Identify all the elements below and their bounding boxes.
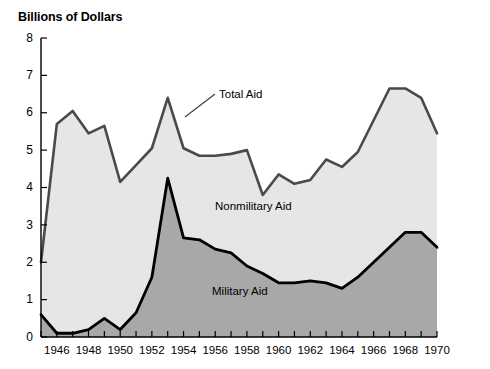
x-axis-tick-label: 1968 — [393, 344, 419, 356]
x-axis-tick-label: 1970 — [424, 344, 450, 356]
x-axis-tick-label: 1950 — [107, 344, 133, 356]
series-annotation-military-aid: Military Aid — [212, 285, 268, 297]
chart-plot-area: 012345678 194619481950195219541956195819… — [0, 0, 490, 369]
x-axis-tick-label: 1958 — [234, 344, 260, 356]
x-axis-tick-label: 1952 — [139, 344, 165, 356]
total-aid-leader-line — [185, 94, 215, 117]
y-axis-tick-label: 2 — [26, 255, 33, 269]
series-annotation-total-aid: Total Aid — [219, 88, 262, 100]
y-axis-tick-label: 7 — [26, 68, 33, 82]
y-axis-tick-label: 0 — [26, 330, 33, 344]
x-axis-tick-label: 1954 — [171, 344, 197, 356]
x-axis-tick-label: 1946 — [44, 344, 70, 356]
y-axis-tick-label: 5 — [26, 143, 33, 157]
x-axis-tick-label: 1966 — [361, 344, 387, 356]
x-axis-tick-label: 1962 — [297, 344, 323, 356]
x-axis-tick-label: 1956 — [202, 344, 228, 356]
y-axis-tick-label: 3 — [26, 218, 33, 232]
x-axis-tick-label: 1948 — [76, 344, 102, 356]
series-annotation-nonmilitary-aid: Nonmilitary Aid — [215, 200, 292, 212]
y-axis-tick-label: 6 — [26, 105, 33, 119]
y-axis-tick-label: 8 — [26, 31, 33, 45]
x-axis-tick-labels: 1946194819501952195419561958196019621964… — [44, 344, 450, 356]
chart-container: Billions of Dollars 012345678 1946194819… — [0, 0, 490, 369]
x-axis-tick-label: 1964 — [329, 344, 355, 356]
area-series-group — [41, 88, 437, 337]
y-axis-tick-labels: 012345678 — [26, 31, 33, 344]
y-axis-tick-label: 1 — [26, 292, 33, 306]
x-axis-tick-label: 1960 — [266, 344, 292, 356]
y-axis-tick-label: 4 — [26, 180, 33, 194]
